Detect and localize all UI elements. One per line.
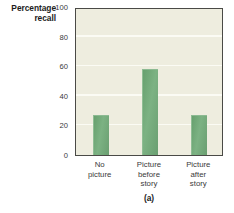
x-label-2-line-0: Picture	[174, 160, 223, 170]
x-label-1-line-1: before	[124, 170, 173, 180]
figure-caption: (a)	[75, 193, 223, 203]
x-label-0-line-0: No	[75, 160, 124, 170]
x-label-2-line-2: story	[174, 179, 223, 189]
figure-bar-chart-a: Percentage recall 100806040200 Nopicture…	[0, 0, 234, 213]
x-label-1: Picturebeforestory	[124, 160, 173, 189]
y-tick-label-80: 80	[60, 34, 68, 42]
y-tick-label-20: 20	[60, 122, 68, 130]
x-axis-category-labels: NopicturePicturebeforestoryPictureafters…	[75, 160, 223, 196]
x-label-0-line-1: picture	[75, 170, 124, 180]
x-label-1-line-0: Picture	[124, 160, 173, 170]
x-label-1-line-2: story	[124, 179, 173, 189]
x-label-0: Nopicture	[75, 160, 124, 179]
bar-0	[93, 115, 109, 155]
y-tick-label-40: 40	[60, 93, 68, 101]
x-label-2-line-1: after	[174, 170, 223, 180]
bar-2	[191, 115, 207, 155]
y-axis-tick-labels: 100806040200	[48, 0, 72, 165]
bars-layer	[76, 9, 222, 155]
plot-area	[75, 8, 223, 156]
y-tick-label-0: 0	[64, 152, 68, 160]
y-tick-label-100: 100	[55, 4, 68, 12]
x-label-2: Pictureafterstory	[174, 160, 223, 189]
y-tick-label-60: 60	[60, 63, 68, 71]
bar-1	[142, 69, 158, 155]
